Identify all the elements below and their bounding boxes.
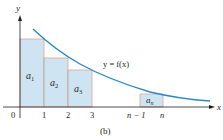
x-tick-n-minus-1: n − 1 [127, 110, 146, 120]
rectangles [20, 39, 163, 107]
figure-caption: (b) [100, 126, 111, 136]
x-axis-arrow-icon [209, 105, 215, 109]
y-axis-arrow-icon [18, 15, 22, 21]
curve-label: y = f(x) [103, 59, 129, 69]
rect-a1 [20, 39, 44, 107]
y-axis-label: y [15, 3, 20, 13]
x-tick-2: 2 [66, 110, 70, 120]
x-tick-n: n [160, 110, 164, 120]
origin-label: 0 [11, 110, 15, 120]
x-tick-3: 3 [90, 110, 94, 120]
x-axis-label: x [216, 102, 221, 112]
x-tick-1: 1 [42, 110, 46, 120]
riemann-diagram: y x 0 1 2 3 n − 1 n y = f(x) a1 a2 a3 an… [0, 0, 223, 140]
